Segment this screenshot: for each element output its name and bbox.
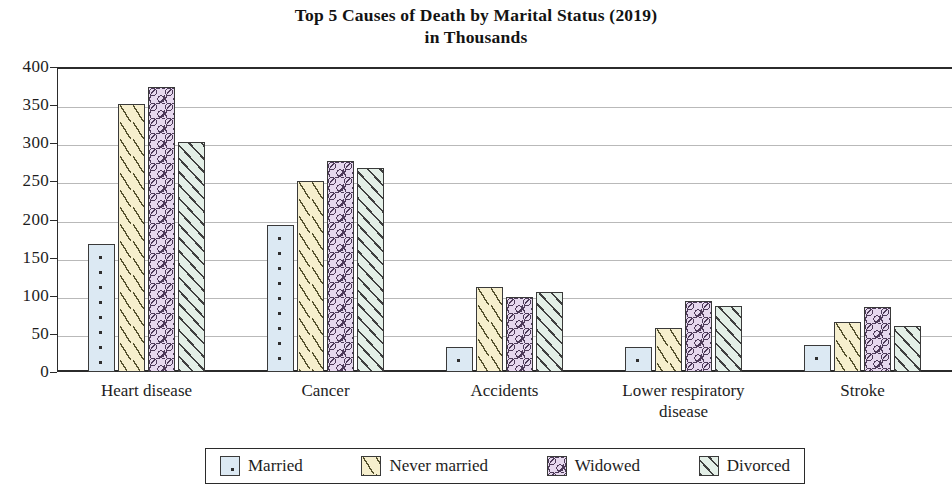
y-axis: 050100150200250300350400	[0, 67, 57, 372]
chart-title: Top 5 Causes of Death by Marital Status …	[0, 4, 952, 26]
bar-widowed	[148, 87, 175, 372]
bar-married	[625, 347, 652, 372]
bar-divorced	[536, 292, 563, 372]
y-axis-tick-label: 0	[40, 362, 49, 382]
y-axis-tick-mark	[50, 334, 57, 335]
chart-subtitle: in Thousands	[0, 26, 952, 48]
legend-swatch-icon	[220, 456, 240, 476]
bar-widowed	[864, 307, 891, 372]
bar-widowed	[506, 297, 533, 372]
y-axis-tick-label: 50	[31, 324, 49, 344]
bar-never-married	[655, 328, 682, 372]
bar-widowed	[685, 301, 712, 372]
y-axis-tick-label: 250	[23, 171, 49, 191]
bar-never-married	[297, 181, 324, 372]
legend-item-divorced[interactable]: Divorced	[699, 456, 790, 476]
chart-container: Top 5 Causes of Death by Marital Status …	[0, 0, 952, 484]
legend-label: Divorced	[727, 456, 790, 476]
legend-swatch-icon	[699, 456, 719, 476]
y-axis-tick-mark	[50, 67, 57, 68]
bar-married	[446, 347, 473, 372]
legend: MarriedNever marriedWidowedDivorced	[205, 448, 805, 484]
bar-married	[88, 244, 115, 372]
y-axis-tick-mark	[50, 220, 57, 221]
legend-swatch-icon	[361, 456, 381, 476]
y-axis-tick-mark	[50, 105, 57, 106]
y-axis-tick-label: 150	[23, 248, 49, 268]
bar-divorced	[178, 142, 205, 372]
bar-divorced	[715, 306, 742, 372]
legend-item-widowed[interactable]: Widowed	[547, 456, 640, 476]
legend-label: Married	[248, 456, 303, 476]
y-axis-tick-label: 200	[23, 210, 49, 230]
bar-married	[804, 345, 831, 372]
legend-label: Never married	[389, 456, 488, 476]
y-axis-tick-mark	[50, 181, 57, 182]
bar-married	[267, 225, 294, 372]
y-axis-tick-label: 350	[23, 95, 49, 115]
y-axis-tick-label: 300	[23, 133, 49, 153]
x-axis-category-label: Stroke	[840, 380, 884, 401]
y-axis-tick-mark	[50, 258, 57, 259]
y-axis-tick-label: 400	[23, 57, 49, 77]
bar-divorced	[894, 326, 921, 372]
x-axis-category-label: Lower respiratory disease	[622, 380, 744, 422]
bar-divorced	[357, 168, 384, 372]
y-axis-tick-mark	[50, 143, 57, 144]
bar-widowed	[327, 161, 354, 372]
y-axis-tick-mark	[50, 372, 57, 373]
bar-never-married	[118, 104, 145, 372]
x-axis-category-label: Cancer	[301, 380, 349, 401]
y-axis-tick-label: 100	[23, 286, 49, 306]
x-axis-category-label: Heart disease	[101, 380, 192, 401]
legend-label: Widowed	[575, 456, 640, 476]
bar-never-married	[476, 287, 503, 372]
chart-title-block: Top 5 Causes of Death by Marital Status …	[0, 4, 952, 48]
legend-item-never-married[interactable]: Never married	[361, 456, 488, 476]
x-axis-labels: Heart diseaseCancerAccidentsLower respir…	[57, 380, 952, 426]
legend-swatch-icon	[547, 456, 567, 476]
y-axis-tick-mark	[50, 296, 57, 297]
bar-never-married	[834, 322, 861, 372]
x-axis-category-label: Accidents	[471, 380, 539, 401]
bars-layer	[57, 67, 952, 372]
legend-item-married[interactable]: Married	[220, 456, 303, 476]
